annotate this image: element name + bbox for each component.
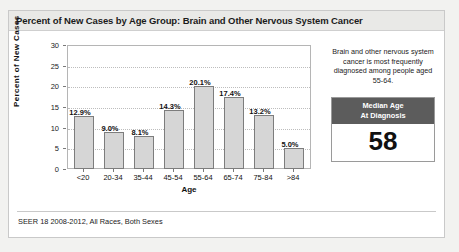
ytick-mark-20 (63, 86, 66, 87)
bar-3 (164, 110, 184, 169)
ytick-label-0: 0 (45, 165, 59, 174)
ytick-mark-10 (63, 128, 66, 129)
ytick-label-10: 10 (45, 123, 59, 132)
source-footnote: SEER 18 2008-2012, All Races, Both Sexes (18, 217, 163, 226)
xtick-mark-1 (113, 169, 114, 172)
bar-1 (104, 132, 124, 169)
footer-divider (17, 211, 436, 212)
median-age-header-line2: At Diagnosis (334, 111, 432, 121)
ytick-label-15: 15 (45, 103, 59, 112)
side-panel: Brain and other nervous system cancer is… (331, 47, 435, 162)
bar-7 (284, 148, 304, 169)
xtick-mark-2 (143, 169, 144, 172)
median-age-header-line1: Median Age (334, 101, 432, 111)
bar-label-2: 8.1% (122, 128, 158, 137)
screenshot-root: Percent of New Cases by Age Group: Brain… (0, 0, 459, 252)
xtick-mark-7 (293, 169, 294, 172)
bar-chart: Percent of New Cases 30 25 20 15 10 5 0 (19, 37, 319, 209)
xtick-label-7: >84 (275, 173, 311, 182)
ytick-label-5: 5 (45, 144, 59, 153)
bar-0 (74, 116, 94, 169)
card-title-bar: Percent of New Cases by Age Group: Brain… (9, 11, 444, 31)
bar-label-7: 5.0% (272, 140, 308, 149)
summary-note: Brain and other nervous system cancer is… (331, 47, 435, 85)
median-age-value: 58 (332, 124, 434, 161)
xtick-mark-4 (203, 169, 204, 172)
bar-6 (254, 115, 274, 169)
ytick-mark-25 (63, 66, 66, 67)
bar-2 (134, 136, 154, 169)
ytick-mark-30 (63, 45, 66, 46)
bar-label-6: 13.2% (242, 107, 278, 116)
bar-4 (194, 86, 214, 169)
x-axis-title: Age (67, 185, 311, 194)
ytick-mark-5 (63, 148, 66, 149)
bar-label-4: 20.1% (182, 78, 218, 87)
median-age-header: Median Age At Diagnosis (332, 98, 434, 124)
page-title: Percent of New Cases by Age Group: Brain… (16, 15, 363, 26)
median-age-box: Median Age At Diagnosis 58 (331, 97, 435, 162)
bar-5 (224, 97, 244, 169)
ytick-label-20: 20 (45, 82, 59, 91)
ytick-mark-0 (63, 169, 66, 170)
xtick-mark-3 (173, 169, 174, 172)
bar-label-0: 12.9% (62, 108, 98, 117)
ytick-label-30: 30 (45, 41, 59, 50)
y-axis-title: Percent of New Cases (12, 15, 21, 107)
xtick-mark-6 (263, 169, 264, 172)
xtick-mark-0 (83, 169, 84, 172)
bar-label-3: 14.3% (152, 102, 188, 111)
ytick-label-25: 25 (45, 61, 59, 70)
stat-card: Percent of New Cases by Age Group: Brain… (8, 10, 445, 238)
xtick-mark-5 (233, 169, 234, 172)
bar-label-5: 17.4% (212, 89, 248, 98)
